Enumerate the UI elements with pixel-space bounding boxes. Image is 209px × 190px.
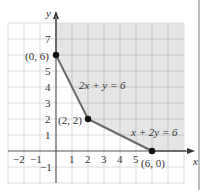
x-tick-4: 4 — [117, 154, 123, 165]
y-tick-1: 1 — [45, 130, 51, 141]
x-tick-2: 2 — [85, 154, 91, 165]
vertex-6-0 — [149, 148, 155, 154]
equation-label-x-plus-2y: x + 2y = 6 — [131, 127, 178, 138]
y-tick-minus-1: −1 — [40, 162, 52, 173]
x-tick-1: 1 — [69, 154, 75, 165]
x-tick-5: 5 — [133, 154, 139, 165]
equation-label-2x-plus-y: 2x + y = 6 — [79, 80, 126, 91]
x-tick-minus-2: −2 — [13, 154, 25, 165]
y-tick-7: 7 — [45, 34, 51, 45]
y-tick-5: 5 — [45, 66, 51, 77]
x-axis-arrow-icon — [187, 148, 195, 154]
x-tick-3: 3 — [101, 154, 107, 165]
y-axis-label: y — [46, 8, 51, 19]
vertex-label-6-0: (6, 0) — [141, 158, 165, 169]
x-axis-label: x — [193, 156, 198, 167]
panel-border — [198, 0, 200, 190]
y-tick-3: 3 — [45, 98, 51, 109]
y-tick-4: 4 — [45, 82, 51, 93]
vertex-2-2 — [85, 116, 91, 122]
x-tick-minus-1: −1 — [30, 154, 42, 165]
vertex-label-2-2: (2, 2) — [58, 115, 82, 126]
vertex-label-0-6: (0, 6) — [25, 51, 49, 62]
y-tick-2: 2 — [45, 114, 51, 125]
vertex-0-6 — [53, 52, 59, 58]
